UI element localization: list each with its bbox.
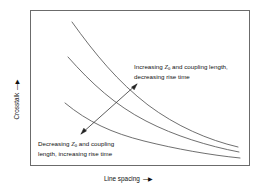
annotation-decreasing-line1: Decreasing Z0 and coupling [38,140,114,150]
annotation-decreasing: Decreasing Z0 and coupling length, incre… [38,140,114,158]
y-axis-label: Crosstalk—▶ [13,70,21,130]
annotation-increasing-line2: decreasing rise time [134,73,228,82]
impedance-subscript-lower: 0 [75,143,77,148]
annotation-decreasing-prefix: Decreasing [38,140,71,147]
crosstalk-vs-line-spacing-figure: Increasing Z0 and coupling length, decre… [0,0,264,191]
annotation-increasing-prefix: Increasing [134,63,165,70]
annotation-increasing: Increasing Z0 and coupling length, decre… [134,63,228,81]
x-axis-arrow-icon: —▶ [143,175,152,183]
impedance-subscript-upper: 0 [168,66,170,71]
annotation-decreasing-line2: length, increasing rise time [38,150,114,159]
annotation-increasing-suffix: and coupling length, [170,63,228,70]
annotation-decreasing-suffix: and coupling [77,140,114,147]
x-axis-label: Line spacing—▶ [104,175,152,183]
y-axis-label-text: Crosstalk [13,93,20,120]
annotation-increasing-line1: Increasing Z0 and coupling length, [134,63,228,73]
x-axis-label-text: Line spacing [104,175,140,182]
y-axis-arrow-icon: —▶ [13,80,21,89]
